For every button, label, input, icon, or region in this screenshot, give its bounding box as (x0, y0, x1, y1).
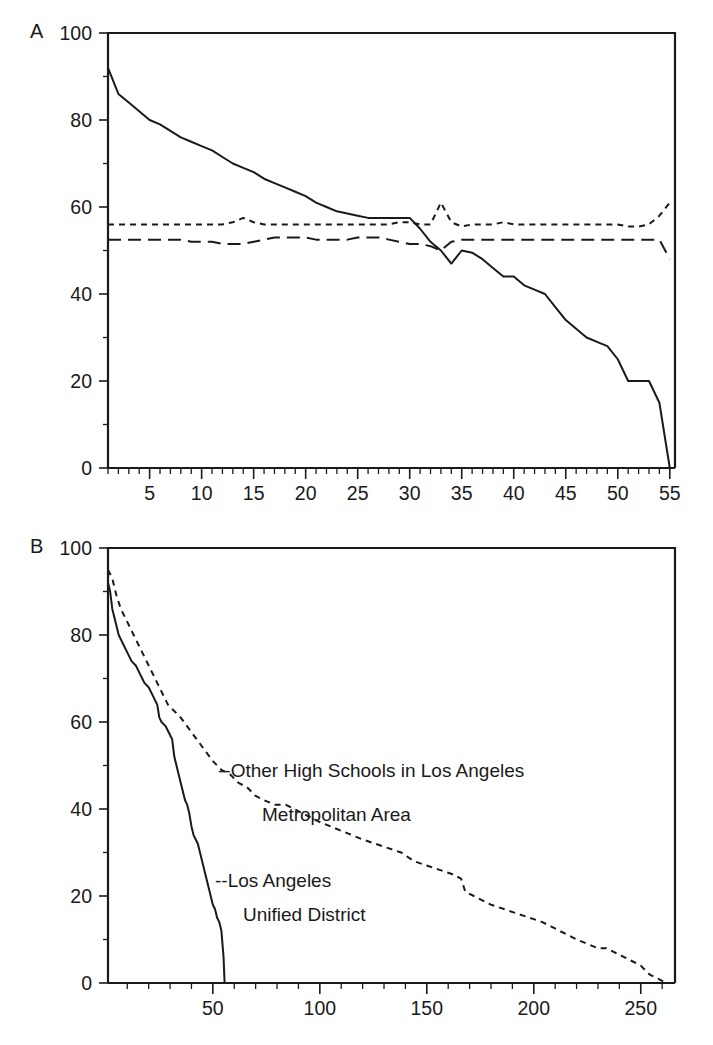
panel-a-letter: A (30, 20, 43, 43)
y-axis-tick-label: 100 (59, 537, 92, 559)
x-axis-tick-label: 40 (503, 482, 525, 504)
annotation-lausd-line1: --Los Angeles (215, 870, 331, 891)
x-axis-tick-label: 20 (295, 482, 317, 504)
panel-b: B 02040608010050100150200250--Other High… (0, 515, 713, 1045)
series-line (108, 583, 225, 983)
panel-b-plot: 02040608010050100150200250--Other High S… (0, 515, 713, 1045)
figure-root: A 020406080100510152025303540455055 B 02… (0, 0, 713, 1045)
x-axis-tick-label: 55 (659, 482, 681, 504)
x-axis-tick-label: 30 (399, 482, 421, 504)
panel-a-plot: 020406080100510152025303540455055 (0, 0, 713, 520)
x-axis-tick-label: 10 (191, 482, 213, 504)
x-axis-tick-label: 200 (518, 997, 551, 1019)
y-axis-tick-label: 60 (70, 196, 92, 218)
y-axis-tick-label: 40 (70, 283, 92, 305)
x-axis-tick-label: 45 (555, 482, 577, 504)
y-axis-tick-label: 60 (70, 711, 92, 733)
x-axis-tick-label: 50 (607, 482, 629, 504)
x-axis-tick-label: 250 (624, 997, 657, 1019)
y-axis-tick-label: 20 (70, 885, 92, 907)
panel-b-letter: B (30, 535, 43, 558)
series-line (108, 203, 670, 227)
x-axis-tick-label: 50 (202, 997, 224, 1019)
annotation-other-schools-line2: Metropolitan Area (262, 804, 411, 825)
x-axis-tick-label: 15 (243, 482, 265, 504)
plot-frame (108, 33, 675, 468)
y-axis-tick-label: 0 (81, 972, 92, 994)
y-axis-tick-label: 20 (70, 370, 92, 392)
panel-a: A 020406080100510152025303540455055 (0, 0, 713, 520)
x-axis-tick-label: 150 (411, 997, 444, 1019)
y-axis-tick-label: 40 (70, 798, 92, 820)
y-axis-tick-label: 80 (70, 624, 92, 646)
annotation-lausd-line2: Unified District (243, 904, 366, 925)
x-axis-tick-label: 100 (304, 997, 337, 1019)
y-axis-tick-label: 80 (70, 109, 92, 131)
series-line (108, 237, 670, 259)
y-axis-tick-label: 0 (81, 457, 92, 479)
annotation-other-schools-line1: --Other High Schools in Los Angeles (218, 760, 524, 781)
x-axis-tick-label: 25 (347, 482, 369, 504)
series-line (108, 68, 670, 468)
y-axis-tick-label: 100 (59, 22, 92, 44)
x-axis-tick-label: 35 (451, 482, 473, 504)
x-axis-tick-label: 5 (144, 482, 155, 504)
